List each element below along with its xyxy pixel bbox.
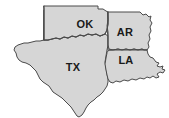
- state-shape-la[interactable]: [105, 50, 165, 83]
- state-label-ok: OK: [77, 18, 94, 30]
- state-label-ar: AR: [117, 26, 133, 38]
- state-label-la: LA: [118, 54, 133, 66]
- map-container: OK AR LA TX: [0, 0, 169, 118]
- state-label-tx: TX: [66, 61, 81, 73]
- states-map-svg: OK AR LA TX: [0, 0, 169, 118]
